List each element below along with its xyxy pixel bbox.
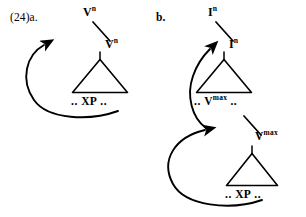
tree-a-leaf-left-dots: .. — [71, 95, 78, 107]
diagram-vector-layer — [0, 0, 306, 217]
tree-b-midleaf-left-dots: .. — [194, 95, 201, 107]
tree-b-midleaf-sup: max — [213, 93, 227, 102]
tree-a-leaf-right-dots: .. — [100, 95, 107, 107]
tree-b-node-head-sup: n — [234, 36, 238, 45]
tree-b-triangle-lower — [227, 154, 278, 186]
tree-a-node-head: Vn — [105, 38, 118, 50]
tree-a-triangle — [73, 60, 128, 93]
tree-a-leaf-xp: .. XP .. — [71, 96, 107, 108]
tree-a-node-head-sup: n — [114, 36, 118, 45]
tree-b-triangle-upper — [197, 60, 252, 93]
tree-a-node-top: Vn — [83, 6, 96, 18]
example-number: (24)a. — [10, 12, 38, 24]
syntax-figure: (24)a. Vn Vn .. XP .. b. In In .. Vmax .… — [0, 0, 306, 217]
tree-b-node-head: In — [229, 38, 238, 50]
tree-b-node-mid-head: Vmax — [255, 131, 278, 143]
tree-b-leaf-text: XP — [235, 188, 251, 200]
tree-b-node-mid-head-sup: max — [264, 128, 278, 137]
tree-b-midleaf-base: V — [204, 95, 213, 107]
tree-b-sub-label: b. — [156, 12, 165, 24]
tree-b-midleaf-right-dots: .. — [230, 95, 237, 107]
tree-b-node-top: In — [208, 6, 217, 18]
tree-b-leaf-vmax: .. Vmax .. — [194, 96, 237, 108]
tree-b-leaf-left-dots: .. — [225, 188, 232, 200]
tree-a-node-top-sup: n — [92, 4, 96, 13]
tree-b-leaf-right-dots: .. — [254, 188, 261, 200]
tree-b-leaf-xp: .. XP .. — [225, 189, 261, 201]
tree-b-movement-arrow-upper — [190, 49, 210, 128]
tree-b-node-top-sup: n — [213, 4, 217, 13]
tree-a-leaf-text: XP — [81, 95, 97, 107]
tree-a-sub-label: a. — [30, 11, 38, 23]
